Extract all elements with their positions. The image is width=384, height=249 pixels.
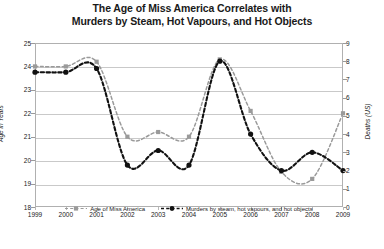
legend-item-age-of-miss-america[interactable]: Age of Miss America (65, 205, 145, 212)
data-point-marker (156, 130, 160, 134)
y-axis-right-tick-mark (343, 152, 347, 153)
y-axis-right-tick-mark (343, 43, 347, 44)
y-axis-left-tick-label: 22 (5, 110, 31, 117)
y-axis-left-tick-mark (31, 90, 35, 91)
chart-container: The Age of Miss America Correlates with … (0, 0, 384, 249)
legend-label: Age of Miss America (90, 206, 145, 212)
y-axis-right-tick-mark (343, 171, 347, 172)
data-point-marker (125, 135, 129, 139)
chart-title: The Age of Miss America Correlates with … (0, 2, 384, 27)
y-axis-right-tick-mark (343, 98, 347, 99)
y-axis-right-tick-label: 6 (346, 94, 372, 101)
chart-legend: Age of Miss AmericaMurders by steam, hot… (35, 205, 343, 212)
y-axis-left-tick-label: 18 (5, 204, 31, 211)
data-point-marker (249, 109, 253, 113)
legend-swatch-icon (65, 205, 87, 212)
data-point-marker (95, 60, 99, 64)
data-point-marker (94, 66, 99, 71)
legend-item-murders-by-steam[interactable]: Murders by steam, hot vapours, and hot o… (161, 205, 313, 212)
y-axis-right-tick-label: 8 (346, 58, 372, 65)
y-axis-left-tick-label: 23 (5, 86, 31, 93)
data-point-marker (63, 70, 68, 75)
y-axis-right-tick-mark (343, 79, 347, 80)
y-axis-right-tick-label: 0 (346, 204, 372, 211)
y-axis-left-tick-label: 24 (5, 63, 31, 70)
y-axis-right-tick-mark (343, 116, 347, 117)
data-point-marker (125, 162, 130, 167)
data-point-marker (64, 64, 68, 68)
data-point-marker (310, 150, 315, 155)
data-point-marker (187, 135, 191, 139)
legend-label: Murders by steam, hot vapours, and hot o… (186, 206, 313, 212)
legend-swatch-icon (161, 205, 183, 212)
data-point-marker (279, 168, 284, 173)
y-axis-right-tick-label: 9 (346, 40, 372, 47)
chart-title-line-2: Murders by Steam, Hot Vapours, and Hot O… (0, 15, 384, 28)
y-axis-right-tick-label: 1 (346, 185, 372, 192)
y-axis-right-tick-mark (343, 61, 347, 62)
y-axis-left-tick-mark (31, 66, 35, 67)
data-point-marker (310, 177, 314, 181)
y-axis-left-tick-mark (31, 137, 35, 138)
y-axis-left-tick-mark (31, 160, 35, 161)
data-point-marker (186, 162, 191, 167)
y-axis-left-tick-label: 20 (5, 157, 31, 164)
y-axis-left-title: Age in Years (0, 105, 4, 142)
data-point-marker (32, 70, 37, 75)
data-point-marker (156, 148, 161, 153)
data-point-marker (217, 59, 222, 64)
y-axis-right-tick-label: 3 (346, 149, 372, 156)
y-axis-right-title: Deaths (US) (364, 104, 371, 140)
y-axis-left-tick-mark (31, 184, 35, 185)
x-axis-tick-mark (343, 207, 344, 210)
x-axis-tick-label: 2009 (323, 211, 363, 219)
series-murders-by-steam (32, 59, 345, 174)
data-point-marker (248, 132, 253, 137)
y-axis-left-tick-label: 21 (5, 133, 31, 140)
chart-title-line-1: The Age of Miss America Correlates with (93, 2, 292, 14)
y-axis-left-tick-mark (31, 113, 35, 114)
y-axis-left-tick-label: 25 (5, 40, 31, 47)
y-axis-left-tick-label: 19 (5, 180, 31, 187)
y-axis-right-tick-label: 2 (346, 167, 372, 174)
y-axis-right-tick-mark (343, 134, 347, 135)
series-line (35, 61, 343, 171)
data-point-marker (341, 111, 345, 115)
series-layer (35, 43, 343, 207)
y-axis-right-tick-mark (343, 189, 347, 190)
y-axis-left-tick-mark (31, 43, 35, 44)
y-axis-right-tick-label: 7 (346, 76, 372, 83)
